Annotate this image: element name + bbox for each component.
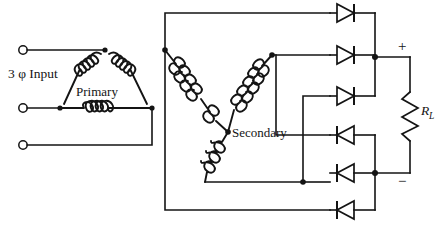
negative-polarity-label: − [398, 173, 406, 189]
diode-d5[interactable] [330, 164, 375, 182]
primary-delta-group [57, 47, 154, 111]
diode-d3[interactable] [330, 87, 375, 105]
resistor-zigzag [402, 92, 418, 141]
secondary-wye-group [162, 47, 275, 182]
circuit-diagram: 3 φ Input Primary Secondary + − R L [0, 0, 441, 244]
primary-winding-c [60, 101, 152, 112]
phase-3-junction-dot [300, 179, 306, 185]
secondary-winding-b [228, 55, 272, 132]
diode-d4[interactable] [330, 126, 375, 144]
secondary-winding-c [201, 132, 228, 182]
secondary-winding-a [165, 50, 228, 132]
secondary-label: Secondary [232, 125, 287, 140]
primary-top-node [102, 47, 107, 52]
diode-d6[interactable] [330, 201, 375, 219]
primary-right-node [149, 105, 154, 110]
diode-d2[interactable] [330, 46, 375, 64]
circuit-schematic-canvas: 3 φ Input Primary Secondary + − R L [0, 0, 441, 244]
phase-3-upper-feed [303, 96, 330, 182]
phase-c-terminal[interactable] [19, 141, 27, 149]
load-resistor-sublabel: L [428, 111, 434, 121]
input-label: 3 φ Input [8, 66, 58, 81]
secondary-neutral-node [225, 129, 231, 135]
diode-d1[interactable] [330, 4, 375, 22]
phase-c-lead [27, 108, 152, 145]
load-resistor[interactable] [402, 57, 418, 173]
primary-label: Primary [76, 84, 118, 99]
phase-a-terminal[interactable] [19, 46, 27, 54]
phase-feed-wires-group [165, 13, 330, 210]
phase-b-terminal[interactable] [19, 104, 27, 112]
primary-left-node [57, 105, 62, 110]
phase-1-upper-feed [165, 13, 330, 50]
positive-polarity-label: + [398, 38, 406, 54]
